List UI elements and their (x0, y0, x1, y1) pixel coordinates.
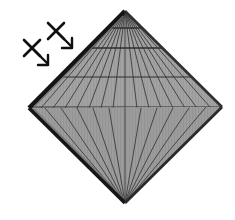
dome-diagram (0, 0, 235, 220)
x-arrow-marker-upper (48, 23, 72, 48)
figure-canvas: Rhombus / diamond silhouette of a segmen… (0, 0, 235, 220)
annotation-markers (24, 23, 72, 65)
x-arrow-marker-lower (24, 40, 48, 65)
arrow-shaft (34, 50, 48, 64)
dome-lower-face (29, 107, 222, 203)
dome-upper-face (29, 11, 222, 108)
arrow-shaft (58, 33, 72, 47)
